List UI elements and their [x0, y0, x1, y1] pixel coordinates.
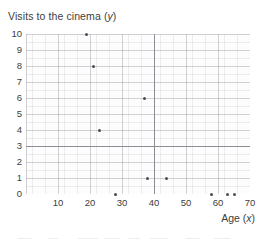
y-axis-tick-label: 3 [4, 141, 22, 151]
scan-artifact [214, 238, 230, 239]
x-axis-tick-label: 60 [206, 197, 230, 208]
scan-artifact [104, 238, 120, 239]
x-axis-tick-labels: 10203040506070 [26, 197, 250, 209]
chart-title-paren-close: ) [113, 10, 117, 22]
x-axis-tick-label: 50 [174, 197, 198, 208]
data-point [226, 193, 229, 196]
data-point [85, 33, 88, 36]
scan-artifact [150, 238, 168, 239]
y-axis-tick-label: 5 [4, 109, 22, 119]
x-axis-label-paren-close: ) [252, 212, 256, 224]
data-point [233, 193, 236, 196]
y-axis-tick-label: 7 [4, 77, 22, 87]
data-point [210, 193, 213, 196]
x-axis-tick-label: 20 [78, 197, 102, 208]
data-point [114, 193, 117, 196]
scan-artifact [78, 238, 98, 239]
x-axis-tick-label: 40 [142, 197, 166, 208]
y-axis-tick-label: 10 [4, 29, 22, 39]
y-axis-tick-labels: 012345678910 [0, 34, 22, 194]
y-axis-tick-label: 6 [4, 93, 22, 103]
scatter-chart-figure: Visits to the cinema (y) 012345678910 10… [0, 0, 269, 243]
chart-title-text: Visits to the cinema [8, 10, 101, 22]
data-point [143, 97, 146, 100]
y-axis-tick-label: 2 [4, 157, 22, 167]
data-point [98, 129, 101, 132]
x-axis-tick-label: 30 [110, 197, 134, 208]
data-point [165, 177, 168, 180]
y-axis-tick-label: 4 [4, 125, 22, 135]
page-bottom-artifacts [0, 234, 269, 243]
x-axis-tick-label: 70 [238, 197, 262, 208]
scan-artifact [18, 238, 32, 239]
data-point [92, 65, 95, 68]
x-axis-label-text: Age [221, 212, 240, 224]
y-axis-tick-label: 8 [4, 61, 22, 71]
vertical-mean-line [154, 34, 155, 194]
scan-artifact [48, 238, 58, 239]
y-axis-tick-label: 9 [4, 45, 22, 55]
y-axis-tick-label: 0 [4, 189, 22, 199]
x-axis-tick-label: 10 [46, 197, 70, 208]
plot-area [26, 34, 250, 194]
horizontal-mean-line [26, 146, 250, 147]
x-axis-label: Age (x) [221, 212, 255, 224]
scan-artifact [186, 238, 200, 239]
scan-artifact [128, 238, 140, 239]
y-axis-tick-label: 1 [4, 173, 22, 183]
data-point [146, 177, 149, 180]
chart-title: Visits to the cinema (y) [8, 10, 116, 22]
